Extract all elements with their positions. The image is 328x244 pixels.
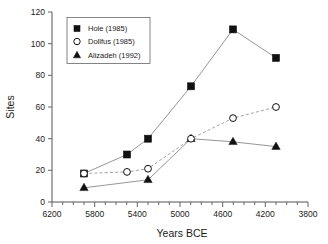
legend-label-dollfus: Dollfus (1985) <box>88 37 135 46</box>
y-tick-label: 20 <box>36 165 46 175</box>
x-tick-label: 4600 <box>213 209 232 219</box>
sites-vs-years-line-chart: 0 20 40 60 80 100 120 <box>0 0 328 244</box>
legend-marker-filled-square <box>74 26 80 32</box>
data-point-dollfus <box>145 165 152 172</box>
x-axis-title: Years BCE <box>157 227 208 239</box>
legend-label-hole: Hole (1985) <box>88 24 128 33</box>
y-tick-label: 120 <box>31 7 45 17</box>
x-tick-label: 6200 <box>43 209 62 219</box>
y-tick-label: 100 <box>31 39 45 49</box>
y-tick-label: 40 <box>36 134 46 144</box>
legend: Hole (1985) Dollfus (1985) Alizadeh (199… <box>67 18 150 64</box>
y-tick-label: 60 <box>36 102 46 112</box>
legend-marker-open-circle <box>74 38 80 44</box>
data-point-dollfus <box>81 170 88 177</box>
legend-label-alizadeh: Alizadeh (1992) <box>88 51 141 60</box>
data-point-hole <box>230 26 237 33</box>
chart-container: 0 20 40 60 80 100 120 <box>0 0 328 244</box>
data-point-dollfus <box>188 135 195 142</box>
data-point-hole <box>273 54 280 61</box>
y-tick-label: 80 <box>36 70 46 80</box>
x-tick-label: 5800 <box>85 209 104 219</box>
y-axis-title: Sites <box>4 95 16 118</box>
x-tick-label: 5000 <box>171 209 190 219</box>
x-tick-label: 3800 <box>299 209 318 219</box>
chart-background <box>0 0 328 244</box>
x-tick-label: 4200 <box>256 209 275 219</box>
data-point-dollfus <box>124 169 131 176</box>
y-tick-label: 0 <box>40 197 45 207</box>
data-point-dollfus <box>273 104 280 111</box>
data-point-hole <box>188 83 195 90</box>
x-tick-label: 5400 <box>128 209 147 219</box>
data-point-hole <box>124 151 131 158</box>
data-point-hole <box>145 135 152 142</box>
data-point-dollfus <box>230 115 237 122</box>
